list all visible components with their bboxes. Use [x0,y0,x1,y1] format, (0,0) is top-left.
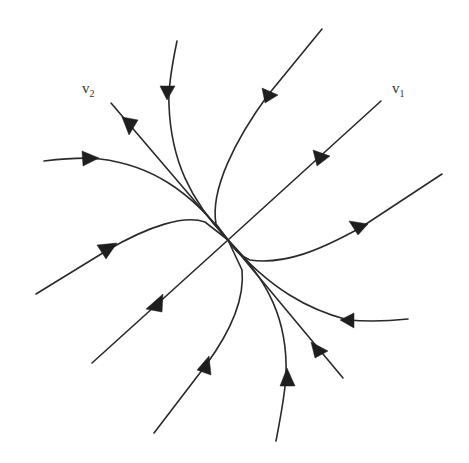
trajectory-left [44,158,228,240]
trajectory-right-lower [228,240,408,321]
trajectory-v1-upper [228,101,381,240]
trajectory-bottom-left [154,240,242,433]
trajectory-left-lower [36,220,228,294]
phase-portrait: v2 v1 [0,0,469,463]
label-v1-base: v [392,80,400,96]
label-v2: v2 [82,80,95,99]
label-v2-base: v [82,80,90,96]
label-v2-sub: 2 [90,88,95,99]
label-v1-sub: 1 [400,88,405,99]
trajectory-right [228,174,442,261]
label-v1: v1 [392,80,405,99]
trajectory-top-right [215,29,322,240]
trajectory-top [169,41,228,240]
